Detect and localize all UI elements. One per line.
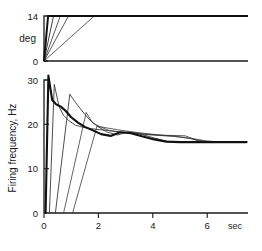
top-panel-ytick-14: 14 (27, 11, 38, 22)
top-ramp-3 (44, 16, 248, 61)
bottom-panel-xtick-0: 0 (41, 220, 46, 231)
figure-root: 14 0 deg (0, 0, 262, 251)
top-ramp-1-fastest (44, 16, 248, 61)
bottom-panel-y-axis-title: Firing frequency, Hz (7, 104, 18, 193)
two-panel-line-chart: 14 0 deg (0, 0, 262, 251)
bottom-panel-xtick-2: 2 (96, 220, 101, 231)
top-ramp-2 (44, 16, 248, 61)
response-trace-4 (64, 112, 247, 213)
bottom-panel-x-axis-unit: sec (228, 221, 243, 231)
top-panel-y-axis-title: deg (19, 33, 36, 44)
top-ramp-5-slowest (44, 16, 248, 61)
response-trace-2 (49, 84, 246, 213)
bottom-panel-ytick-10: 10 (27, 163, 38, 174)
bottom-panel-xtick-4: 4 (150, 220, 155, 231)
bottom-panel-xtick-6: 6 (205, 220, 210, 231)
bottom-panel: 30 20 10 0 0 2 4 6 sec Firing frequency,… (7, 75, 248, 232)
bottom-panel-ytick-30: 30 (27, 75, 38, 86)
bottom-panel-ytick-0: 0 (33, 208, 38, 219)
response-trace-1-fastest (46, 76, 247, 213)
top-ramp-4 (44, 16, 248, 61)
top-panel-ytick-0: 0 (33, 56, 38, 67)
response-trace-3 (55, 94, 246, 213)
bottom-panel-ytick-20: 20 (27, 119, 38, 130)
top-panel: 14 0 deg (19, 11, 248, 67)
